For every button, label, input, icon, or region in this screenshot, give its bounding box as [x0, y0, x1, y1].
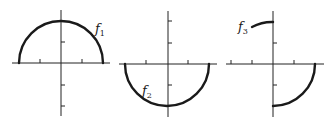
- graph-f3: f3: [226, 11, 324, 117]
- f2-curve: [125, 64, 209, 106]
- graph-f1: f1: [12, 10, 110, 116]
- f3-lower-arc: [273, 64, 315, 106]
- f3-label: f3: [237, 19, 248, 36]
- f2-label: f2: [141, 83, 152, 100]
- f1-label: f1: [94, 21, 105, 38]
- graph-f2: f2: [119, 11, 217, 117]
- function-graphs-figure: f1 f2 f3: [0, 0, 332, 124]
- f3-upper-arc: [252, 22, 273, 27]
